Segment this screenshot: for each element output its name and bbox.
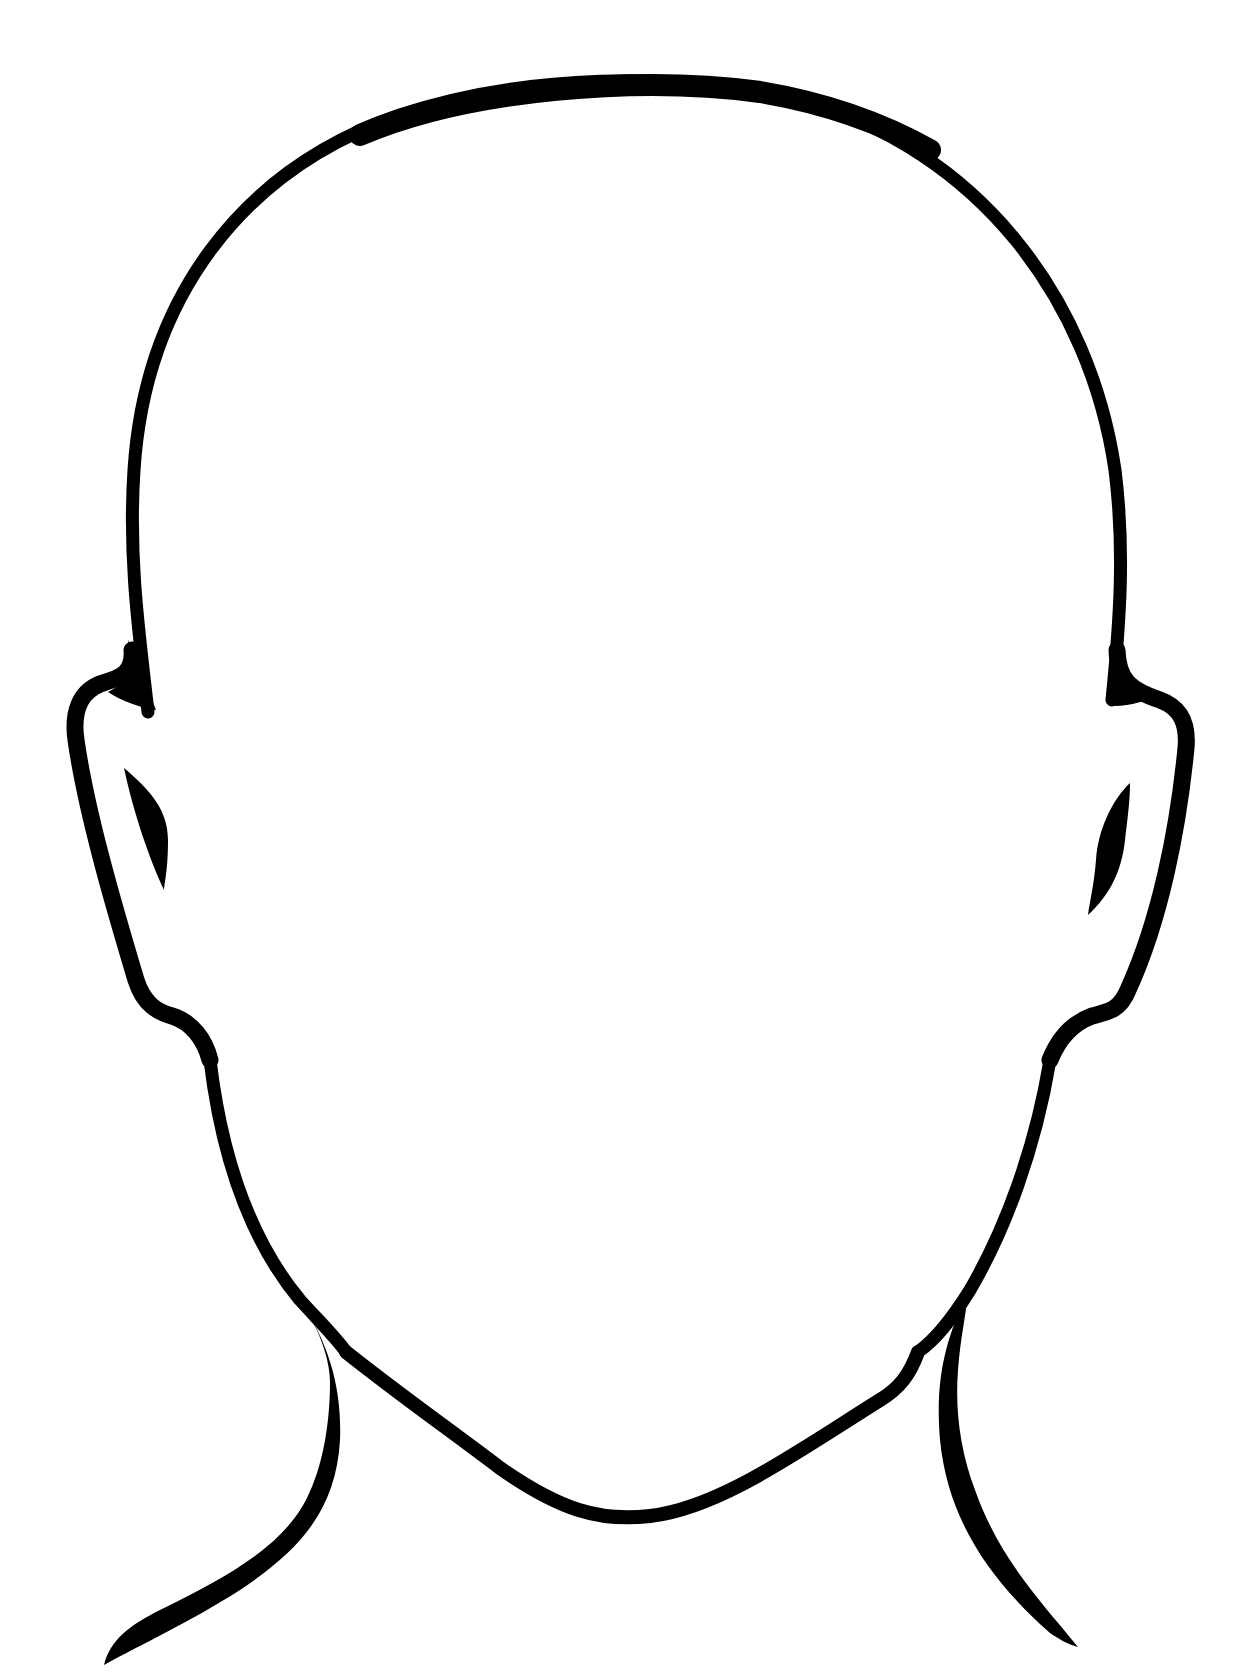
- jawline-left: [210, 1060, 346, 1352]
- jawline-right: [918, 1060, 1050, 1352]
- face-outline-illustration: [0, 0, 1252, 1678]
- face-outline-canvas: [0, 0, 1252, 1678]
- chin: [346, 1352, 918, 1517]
- right-ear-inner: [1088, 783, 1130, 915]
- neck-right: [939, 1292, 1078, 1647]
- left-ear-inner: [124, 768, 168, 890]
- head-outline: [132, 81, 1120, 712]
- crown-weight: [360, 85, 930, 150]
- neck-left: [104, 1300, 340, 1665]
